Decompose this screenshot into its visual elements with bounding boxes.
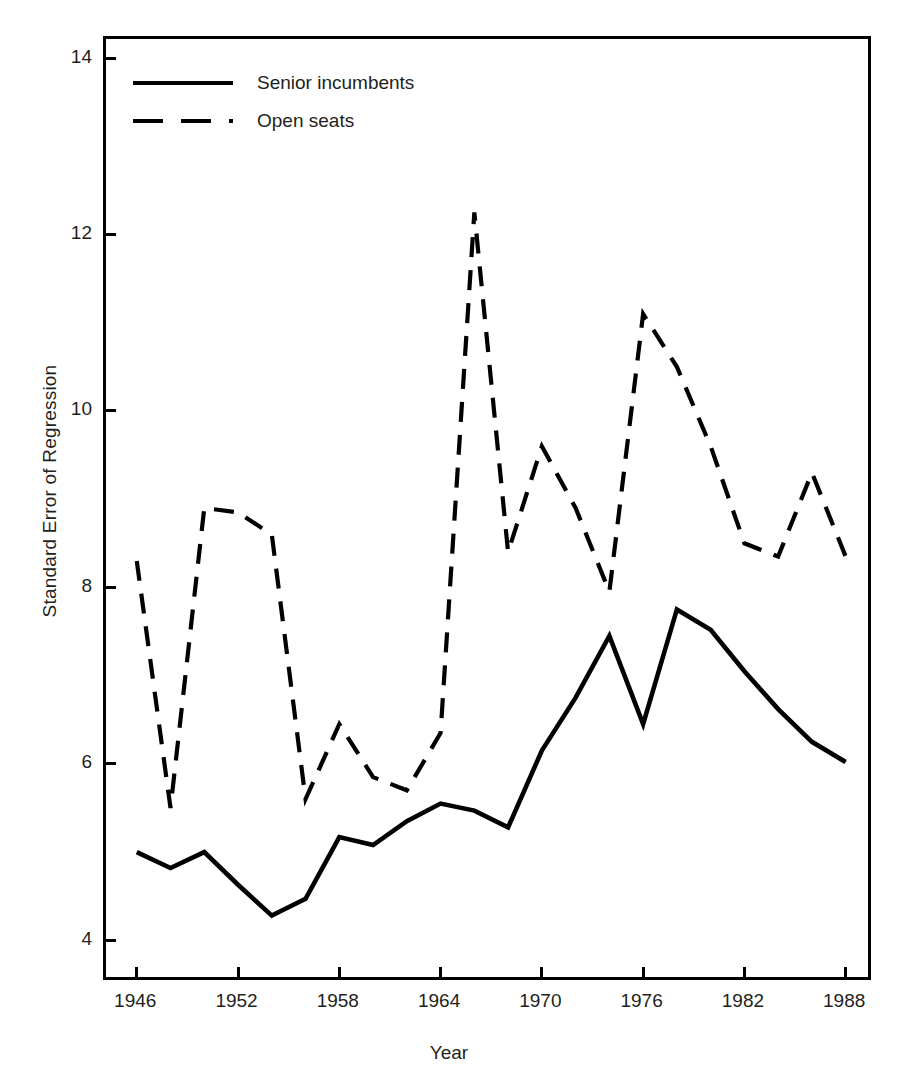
y-tick-label-6: 6 [81, 751, 92, 773]
x-tick-label-1976: 1976 [610, 990, 674, 1012]
x-tick-label-1988: 1988 [812, 990, 876, 1012]
y-tick-label-8: 8 [81, 575, 92, 597]
x-tick-label-1982: 1982 [711, 990, 775, 1012]
y-axis-title: Standard Error of Regression [39, 291, 61, 691]
legend-item-open-seats: Open seats [131, 102, 414, 140]
legend-label-senior-incumbents: Senior incumbents [257, 72, 414, 94]
x-tick-label-1946: 1946 [103, 990, 167, 1012]
series-line-senior-incumbents [137, 609, 846, 915]
y-tick-label-10: 10 [71, 398, 92, 420]
legend-label-open-seats: Open seats [257, 110, 354, 132]
x-tick-label-1970: 1970 [508, 990, 572, 1012]
legend-line-solid-icon [131, 76, 235, 90]
x-tick-label-1952: 1952 [205, 990, 269, 1012]
legend-item-senior-incumbents: Senior incumbents [131, 64, 414, 102]
plot-area: 468101214 194619521958196419701976198219… [103, 36, 871, 980]
y-tick-label-12: 12 [71, 222, 92, 244]
x-tick-label-1958: 1958 [306, 990, 370, 1012]
legend-line-dashed-icon [131, 114, 235, 128]
y-tick-label-4: 4 [81, 928, 92, 950]
chart-legend: Senior incumbents Open seats [131, 64, 414, 140]
chart-figure: Standard Error of Regression Year 468101… [0, 0, 898, 1092]
series-line-open-seats [137, 212, 846, 808]
y-tick-label-14: 14 [71, 46, 92, 68]
data-lines [103, 36, 871, 980]
x-axis-title: Year [0, 1042, 898, 1064]
x-tick-label-1964: 1964 [407, 990, 471, 1012]
